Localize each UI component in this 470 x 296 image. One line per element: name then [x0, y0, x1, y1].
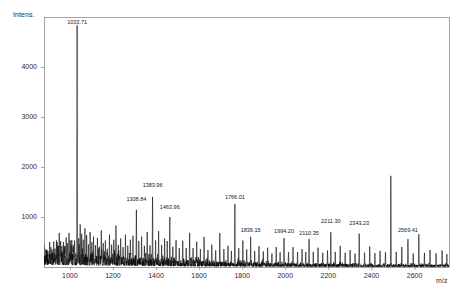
- spectrum-trace: [44, 25, 449, 266]
- mass-spectrum-chart: Intens. m/z 1000200030004000 10001200140…: [0, 0, 470, 296]
- spectrum-plot-area: [0, 0, 470, 296]
- plot-frame: [45, 18, 450, 268]
